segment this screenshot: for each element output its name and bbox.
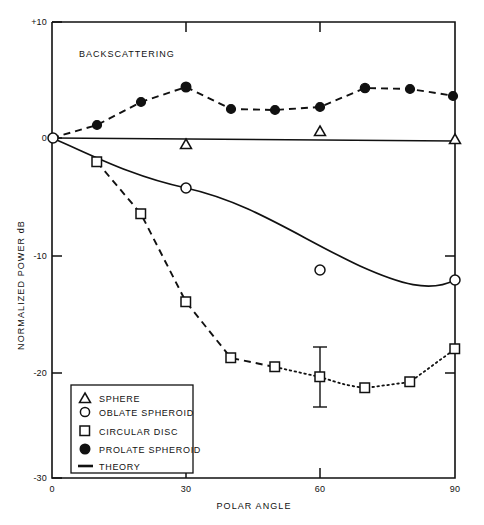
datapoint-disc: [181, 297, 191, 307]
chart-figure: +10 0 -10 -20 -30 0 30 60 90 POLAR ANGLE…: [0, 0, 484, 525]
datapoint-prolate: [227, 105, 236, 114]
datapoint-disc: [450, 344, 460, 354]
chart-legend: SPHERE OBLATE SPHEROID CIRCULAR DISC PRO…: [71, 385, 201, 473]
y-ticklabel-0: +10: [31, 17, 47, 27]
datapoint-sphere: [450, 134, 461, 144]
series-circular-disc-line-dotted: [275, 349, 455, 388]
datapoint-prolate: [181, 82, 191, 92]
datapoint-prolate: [93, 121, 102, 130]
x-ticklabel-3: 90: [450, 484, 460, 494]
datapoint-disc: [226, 353, 236, 363]
series-theory-flat-line: [52, 138, 455, 141]
legend-label-circular-disc: CIRCULAR DISC: [99, 427, 178, 437]
datapoint-prolate: [316, 103, 325, 112]
legend-label-prolate-spheroid: PROLATE SPHEROID: [99, 445, 201, 455]
datapoint-oblate: [450, 275, 460, 285]
datapoint-prolate: [406, 85, 415, 94]
legend-filled-circle-icon: [80, 444, 90, 454]
datapoint-disc: [92, 157, 102, 167]
datapoint-prolate: [360, 83, 369, 92]
y-ticklabel-2: -10: [33, 251, 47, 261]
series-circular-disc-markers: [92, 157, 460, 393]
series-prolate-spheroid-line: [52, 87, 455, 138]
series-theory-curve: [52, 138, 455, 286]
datapoint-prolate: [271, 106, 280, 115]
datapoint-sphere: [315, 126, 326, 136]
series-oblate-spheroid-markers: [48, 133, 460, 285]
datapoint-oblate: [48, 133, 58, 143]
x-ticklabel-0: 0: [49, 484, 54, 494]
series-sphere-markers: [181, 126, 461, 149]
legend-open-square-icon: [80, 426, 90, 436]
datapoint-disc: [405, 377, 415, 387]
datapoint-disc: [315, 372, 325, 382]
datapoint-prolate: [137, 98, 146, 107]
x-ticklabel-2: 60: [315, 484, 325, 494]
datapoint-disc: [270, 362, 280, 372]
y-axis-title: NORMALIZED POWER dB: [16, 220, 26, 350]
datapoint-sphere: [181, 139, 192, 149]
datapoint-oblate: [181, 183, 191, 193]
y-ticklabel-3: -20: [33, 368, 47, 378]
chart-svg: +10 0 -10 -20 -30 0 30 60 90 POLAR ANGLE…: [0, 0, 484, 525]
y-ticklabel-4: -30: [33, 473, 47, 483]
datapoint-disc: [136, 209, 146, 219]
legend-open-circle-icon: [80, 407, 89, 416]
legend-label-oblate-spheroid: OBLATE SPHEROID: [99, 408, 194, 418]
datapoint-prolate: [449, 92, 458, 101]
x-axis-title: POLAR ANGLE: [216, 501, 291, 511]
x-axis-ticks: [186, 22, 320, 478]
y-ticklabel-1: 0: [42, 133, 47, 143]
datapoint-disc: [360, 383, 370, 393]
backscattering-annotation: BACKSCATTERING: [79, 49, 175, 59]
series-prolate-spheroid-markers: [93, 82, 458, 129]
x-ticklabel-1: 30: [181, 484, 191, 494]
legend-label-sphere: SPHERE: [99, 394, 140, 404]
legend-label-theory: THEORY: [99, 462, 141, 472]
datapoint-oblate: [315, 265, 325, 275]
